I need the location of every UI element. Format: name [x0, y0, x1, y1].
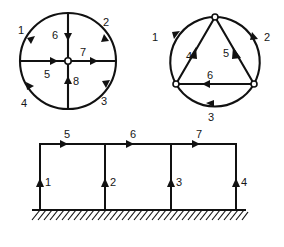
node-top: [212, 14, 218, 20]
figure-three-bay-frame: 5 6 7 1 2 3 4: [14, 124, 270, 244]
beam-7-arrowhead: [192, 140, 200, 148]
frame-svg: 5 6 7 1 2 3 4: [14, 124, 270, 244]
label-beam-5: 5: [64, 128, 70, 140]
label-arc-1: 1: [152, 31, 158, 43]
label-spoke-6: 6: [52, 29, 58, 41]
label-spoke-5: 5: [44, 68, 50, 80]
beam-5-arrowhead: [60, 140, 68, 148]
column-1-arrowhead: [36, 178, 44, 187]
label-arc-3: 3: [101, 95, 107, 107]
figure-circle-with-spokes: 1 2 3 4 5 6 7 8: [0, 0, 140, 124]
label-arc-2: 2: [264, 31, 270, 43]
label-column-1: 1: [45, 176, 51, 188]
column-3-arrowhead: [167, 178, 175, 187]
spoke-8-arrowhead: [64, 76, 72, 84]
arc-1-path: [20, 13, 68, 61]
label-column-4: 4: [241, 176, 247, 188]
label-spoke-7: 7: [80, 46, 86, 58]
chord-6-arrowhead: [202, 80, 210, 88]
node-bottom-right: [251, 81, 257, 87]
label-beam-7: 7: [196, 128, 202, 140]
arc-3-path: [176, 84, 254, 107]
arc-2-arrowhead: [250, 32, 258, 40]
spoke-7-arrowhead: [90, 57, 98, 65]
label-beam-6: 6: [130, 128, 136, 140]
label-column-2: 2: [110, 176, 116, 188]
column-4-arrowhead: [232, 178, 240, 187]
spoke-6-arrowhead: [64, 33, 72, 41]
label-column-3: 3: [176, 176, 182, 188]
column-2-arrowhead: [101, 178, 109, 187]
circle-triangle-svg: 1 2 3 4 5 6: [140, 0, 284, 124]
arc-1-arrowhead: [27, 36, 35, 44]
spoke-5-arrowhead: [50, 57, 58, 65]
label-arc-2: 2: [103, 16, 109, 28]
beam-6-arrowhead: [126, 140, 134, 148]
label-chord-4: 4: [186, 50, 192, 62]
chord-5-arrowhead: [232, 47, 241, 59]
label-arc-1: 1: [18, 24, 24, 36]
label-spoke-8: 8: [73, 75, 79, 87]
label-arc-4: 4: [21, 97, 27, 109]
diagram-canvas: 1 2 3 4 5 6 7 8: [0, 0, 284, 247]
figure-circle-with-triangle: 1 2 3 4 5 6: [140, 0, 284, 124]
label-chord-6: 6: [207, 69, 213, 81]
center-node: [65, 58, 71, 64]
circle-spokes-svg: 1 2 3 4 5 6 7 8: [0, 0, 140, 124]
node-bottom-left: [173, 81, 179, 87]
label-chord-5: 5: [223, 47, 229, 59]
ground-hatching: [32, 210, 248, 220]
label-arc-3: 3: [208, 111, 214, 123]
